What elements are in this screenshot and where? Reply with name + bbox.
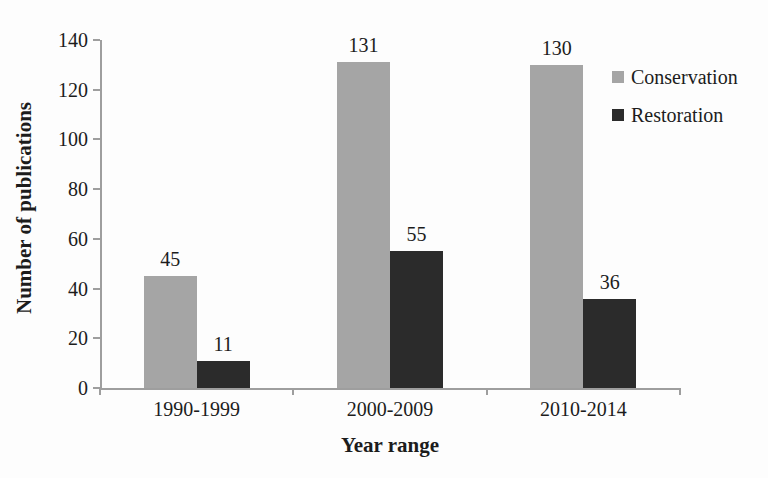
legend-swatch-restoration — [612, 109, 624, 121]
y-tick-label: 0 — [38, 375, 88, 401]
y-tick-label: 80 — [38, 176, 88, 202]
y-axis-title: Number of publications — [12, 102, 37, 314]
x-tick-mark — [486, 388, 488, 395]
legend-row-conservation: Conservation — [612, 64, 738, 90]
y-tick-mark — [93, 238, 100, 240]
legend-label-conservation: Conservation — [631, 64, 738, 90]
x-tick-mark — [99, 388, 101, 395]
bar-value-label: 45 — [135, 246, 205, 272]
y-tick-label: 100 — [38, 126, 88, 152]
legend: ConservationRestoration — [612, 64, 738, 140]
x-axis-line — [100, 388, 681, 390]
bar-value-label: 55 — [382, 221, 452, 247]
bar-value-label: 131 — [329, 32, 399, 58]
x-tick-label: 1990-1999 — [127, 396, 267, 422]
y-tick-label: 60 — [38, 226, 88, 252]
y-axis-line — [100, 40, 102, 390]
y-tick-mark — [93, 337, 100, 339]
y-tick-label: 20 — [38, 325, 88, 351]
bar-value-label: 130 — [522, 35, 592, 61]
x-tick-mark — [292, 388, 294, 395]
y-tick-mark — [93, 138, 100, 140]
y-tick-mark — [93, 188, 100, 190]
legend-label-restoration: Restoration — [631, 102, 723, 128]
y-tick-label: 40 — [38, 276, 88, 302]
x-tick-label: 2010-2014 — [513, 396, 653, 422]
x-axis-title: Year range — [290, 433, 490, 458]
y-tick-label: 120 — [38, 77, 88, 103]
bar-value-label: 36 — [575, 269, 645, 295]
x-tick-label: 2000-2009 — [320, 396, 460, 422]
x-tick-mark — [679, 388, 681, 395]
y-tick-mark — [93, 288, 100, 290]
bar-restoration-1990-1999 — [197, 361, 250, 388]
y-tick-label: 140 — [38, 27, 88, 53]
legend-swatch-conservation — [612, 71, 624, 83]
bar-restoration-2010-2014 — [583, 299, 636, 388]
bar-restoration-2000-2009 — [390, 251, 443, 388]
bar-conservation-2010-2014 — [530, 65, 583, 388]
bar-value-label: 11 — [188, 331, 258, 357]
legend-row-restoration: Restoration — [612, 102, 738, 128]
y-tick-mark — [93, 39, 100, 41]
bar-chart-figure: Number of publications 02040608010012014… — [0, 0, 768, 478]
y-tick-mark — [93, 89, 100, 91]
